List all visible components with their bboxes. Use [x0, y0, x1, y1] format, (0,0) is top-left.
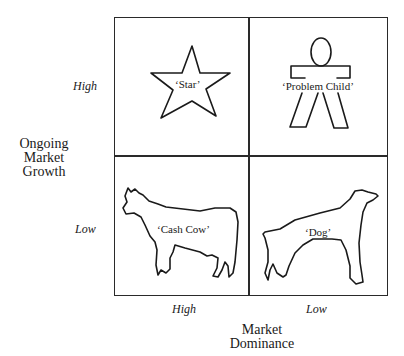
- dog-icon: [0, 0, 404, 356]
- quadrant-label-dog: ‘Dog’: [305, 226, 331, 238]
